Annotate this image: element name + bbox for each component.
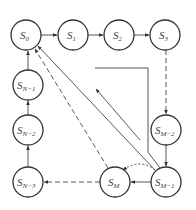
state-node-sm: SM [100,167,130,197]
state-node-s3: S3 [150,20,180,50]
edge-sm1-s0-diagonal [38,46,155,170]
state-node-sn2: SN−2 [13,115,43,145]
state-node-s2: S2 [104,20,134,50]
state-diagram: S0 S1 S2 S3 SM−2 SM−1 SM SN−3 SN−2 SN−1 [0,0,196,210]
state-node-s1: S1 [58,20,88,50]
state-node-sm1: SM−1 [151,167,181,197]
state-node-sn3: SN−3 [13,167,43,197]
state-node-s0: S0 [11,20,41,50]
edge-inner-bracket [95,68,160,168]
state-node-sm2: SM−2 [151,115,181,145]
state-node-sn1: SN−1 [13,70,43,100]
